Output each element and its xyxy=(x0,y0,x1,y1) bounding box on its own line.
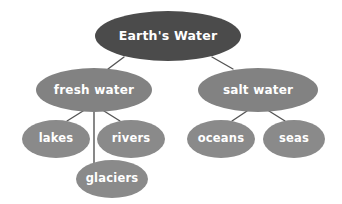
node-label-rivers: rivers xyxy=(112,133,151,145)
node-oceans[interactable]: oceans xyxy=(187,120,255,158)
node-label-fresh-water: fresh water xyxy=(54,84,134,96)
node-salt-water[interactable]: salt water xyxy=(198,68,318,112)
node-label-earths-water: Earth's Water xyxy=(119,30,218,43)
node-label-salt-water: salt water xyxy=(223,84,293,96)
node-glaciers[interactable]: glaciers xyxy=(76,160,148,198)
node-label-lakes: lakes xyxy=(39,133,74,145)
node-fresh-water[interactable]: fresh water xyxy=(36,68,152,112)
edge-fresh-water-to-rivers xyxy=(104,111,120,121)
edge-fresh-water-to-lakes xyxy=(67,111,83,121)
node-earths-water[interactable]: Earth's Water xyxy=(95,11,241,61)
edge-earths-water-to-salt-water xyxy=(212,57,233,69)
node-rivers[interactable]: rivers xyxy=(97,120,165,158)
node-label-oceans: oceans xyxy=(198,133,245,145)
node-label-seas: seas xyxy=(279,133,309,145)
concept-map-diagram: Earth's Water fresh water salt water lak… xyxy=(0,0,342,204)
edge-salt-water-to-seas xyxy=(269,111,285,121)
node-label-glaciers: glaciers xyxy=(86,173,139,185)
edge-earths-water-to-fresh-water xyxy=(108,57,124,69)
node-lakes[interactable]: lakes xyxy=(22,120,90,158)
edge-salt-water-to-oceans xyxy=(232,111,247,121)
node-seas[interactable]: seas xyxy=(263,120,325,158)
